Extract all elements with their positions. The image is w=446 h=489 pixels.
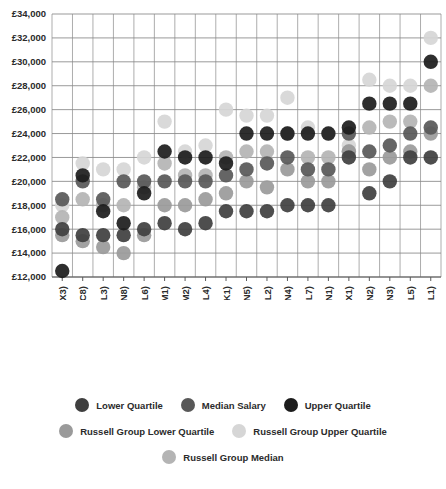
data-point: [137, 150, 151, 164]
legend-label: Median Salary: [202, 400, 266, 411]
data-point: [198, 150, 212, 164]
data-point: [301, 126, 315, 140]
data-point: [239, 126, 253, 140]
x-axis-category-label: Architecture (K1): [221, 286, 232, 300]
data-point: [342, 150, 356, 164]
data-point: [362, 162, 376, 176]
x-axis-category-label: Law by Topic (M2): [180, 286, 191, 300]
data-point: [96, 204, 110, 218]
data-point: [301, 198, 315, 212]
data-point: [403, 126, 417, 140]
data-point: [260, 156, 274, 170]
data-point: [219, 204, 233, 218]
data-point: [178, 174, 192, 188]
data-point: [383, 96, 397, 110]
y-axis-tick-label: £18,000: [12, 200, 46, 211]
legend-item-rg-upper-quartile[interactable]: Russell Group Upper Quartile: [232, 424, 387, 438]
data-point: [116, 216, 130, 230]
y-axis-tick-label: £32,000: [12, 32, 46, 43]
data-point: [219, 102, 233, 116]
data-point: [157, 114, 171, 128]
legend-row-2: Russell Group Lower Quartile Russell Gro…: [0, 424, 446, 438]
data-point: [157, 198, 171, 212]
data-point: [280, 126, 294, 140]
data-point: [116, 198, 130, 212]
x-axis-category-label: Psychology (C8): [77, 286, 88, 300]
data-point: [260, 204, 274, 218]
data-point: [403, 96, 417, 110]
data-point: [137, 186, 151, 200]
legend-dot-icon: [75, 398, 89, 412]
data-point: [383, 138, 397, 152]
y-axis-tick-label: £12,000: [12, 271, 46, 282]
data-point: [362, 144, 376, 158]
data-point: [383, 174, 397, 188]
x-axis-category-label: Accounting (N4): [282, 286, 293, 300]
data-point: [76, 168, 90, 182]
legend-dot-icon: [284, 398, 298, 412]
data-point: [260, 126, 274, 140]
data-point: [280, 90, 294, 104]
data-point: [157, 174, 171, 188]
data-point: [260, 108, 274, 122]
legend-item-rg-lower-quartile[interactable]: Russell Group Lower Quartile: [59, 424, 214, 438]
data-point: [362, 73, 376, 87]
data-point: [178, 222, 192, 236]
data-point: [362, 186, 376, 200]
x-axis-category-label: Social Policy (L4): [200, 286, 211, 300]
x-axis-category-label: Train. Teachers (X1): [343, 286, 354, 300]
data-point: [383, 114, 397, 128]
legend-item-rg-median[interactable]: Russell Group Median: [162, 450, 283, 464]
data-point: [424, 31, 438, 45]
x-axis-category-label: Law by Area (M1): [159, 286, 170, 300]
legend-item-median-salary[interactable]: Median Salary: [181, 398, 266, 412]
data-point: [76, 192, 90, 206]
x-axis-category-label: Sociology (L3): [98, 286, 109, 300]
y-axis-tick-label: £34,000: [12, 8, 46, 19]
data-point: [178, 150, 192, 164]
data-point: [321, 126, 335, 140]
data-point: [239, 162, 253, 176]
legend-dot-icon: [162, 450, 176, 464]
data-point: [280, 198, 294, 212]
data-point: [157, 216, 171, 230]
data-point: [76, 228, 90, 242]
data-point: [239, 144, 253, 158]
plot-area: £34,000£32,000£30,000£28,000£26,000£24,0…: [0, 0, 446, 300]
data-point: [342, 120, 356, 134]
data-point: [280, 150, 294, 164]
data-point: [157, 144, 171, 158]
legend-item-upper-quartile[interactable]: Upper Quartile: [284, 398, 371, 412]
legend-row-3: Russell Group Median: [0, 450, 446, 464]
data-point: [96, 162, 110, 176]
y-axis-tick-label: £22,000: [12, 152, 46, 163]
y-axis-tick-label: £14,000: [12, 247, 46, 258]
data-point: [96, 228, 110, 242]
data-point: [424, 79, 438, 93]
y-axis-tick-label: £26,000: [12, 104, 46, 115]
data-point: [198, 174, 212, 188]
data-point: [178, 198, 192, 212]
x-axis-category-label: Economics (L1): [425, 286, 436, 300]
data-point: [55, 264, 69, 278]
legend-item-lower-quartile[interactable]: Lower Quartile: [75, 398, 163, 412]
data-point: [362, 120, 376, 134]
data-point: [239, 204, 253, 218]
x-axis-category-label: Ac. Stud. in Ed. (X3): [57, 286, 68, 300]
x-axis-category-label: Management ... (N2): [364, 286, 375, 300]
data-point: [424, 150, 438, 164]
data-point: [260, 180, 274, 194]
x-axis-category-label: H&S Geography (L7): [303, 286, 314, 300]
legend-label: Lower Quartile: [96, 400, 163, 411]
data-point: [219, 156, 233, 170]
data-point: [424, 120, 438, 134]
data-point: [198, 216, 212, 230]
y-axis-tick-label: £20,000: [12, 176, 46, 187]
data-point: [55, 222, 69, 236]
x-axis-category-label: Marketing (N5): [241, 286, 252, 300]
x-axis-category-label: Finance (N3): [384, 286, 395, 300]
y-axis-tick-label: £24,000: [12, 128, 46, 139]
data-point: [55, 192, 69, 206]
data-point: [362, 96, 376, 110]
legend-label: Russell Group Lower Quartile: [80, 426, 214, 437]
